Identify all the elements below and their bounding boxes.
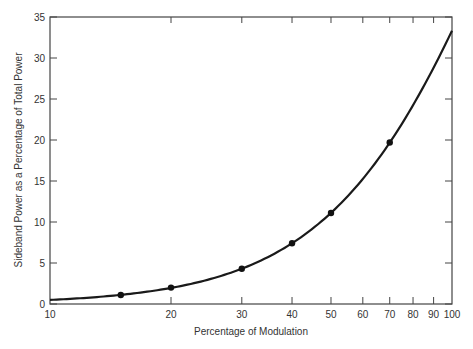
y-tick-label: 15 bbox=[34, 176, 46, 187]
x-tick-label: 40 bbox=[286, 309, 298, 320]
data-curve bbox=[50, 31, 452, 300]
x-tick-label: 30 bbox=[236, 309, 248, 320]
y-tick-label: 10 bbox=[34, 217, 46, 228]
chart: 05101520253035 102030405060708090100 Per… bbox=[0, 0, 473, 349]
y-tick-label: 0 bbox=[39, 299, 45, 310]
x-tick-label: 10 bbox=[44, 309, 56, 320]
y-tick-label: 20 bbox=[34, 135, 46, 146]
x-axis-title: Percentage of Modulation bbox=[194, 326, 308, 337]
plot-frame bbox=[50, 17, 452, 304]
x-tick-label: 80 bbox=[407, 309, 419, 320]
y-axis: 05101520253035 bbox=[34, 12, 452, 310]
data-point bbox=[118, 292, 124, 298]
y-tick-label: 30 bbox=[34, 53, 46, 64]
y-tick-label: 35 bbox=[34, 12, 46, 23]
x-tick-label: 100 bbox=[444, 309, 461, 320]
data-point bbox=[168, 284, 174, 290]
x-axis: 102030405060708090100 bbox=[44, 17, 460, 320]
data-point bbox=[289, 240, 295, 246]
y-tick-label: 5 bbox=[39, 258, 45, 269]
x-tick-label: 50 bbox=[325, 309, 337, 320]
data-point bbox=[239, 266, 245, 272]
y-tick-label: 25 bbox=[34, 94, 46, 105]
data-point bbox=[387, 139, 393, 145]
x-tick-label: 90 bbox=[428, 309, 440, 320]
x-tick-label: 60 bbox=[357, 309, 369, 320]
y-axis-title: Sideband Power as a Percentage of Total … bbox=[13, 52, 24, 268]
x-tick-label: 20 bbox=[165, 309, 177, 320]
plot-border bbox=[50, 17, 452, 304]
x-tick-label: 70 bbox=[384, 309, 396, 320]
data-point bbox=[328, 210, 334, 216]
data-markers bbox=[118, 139, 393, 298]
